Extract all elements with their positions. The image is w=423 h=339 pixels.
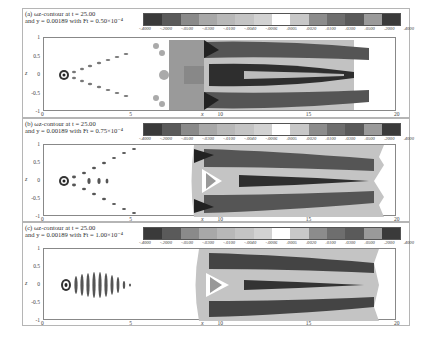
colorbar-swatch bbox=[345, 228, 363, 239]
colorbar-label: -.0040 bbox=[244, 240, 256, 245]
title-line1: (c) ωz-contour at t = 25.00 bbox=[25, 224, 123, 231]
colorbar-swatch bbox=[364, 124, 382, 135]
colorbar-swatch bbox=[327, 228, 345, 239]
panel-title: (b) ωz-contour at t = 25.00 and y = 0.00… bbox=[25, 120, 123, 135]
panel-title: (a) ωz-contour at t = 25.00 and y = 0.00… bbox=[25, 10, 123, 25]
colorbar-swatch bbox=[254, 228, 272, 239]
x-tick-label: 15 bbox=[306, 111, 312, 117]
x-tick-label: 5 bbox=[129, 111, 132, 117]
colorbar-swatch bbox=[235, 124, 253, 135]
colorbar-label: -.0040 bbox=[244, 136, 256, 141]
colorbar-swatch bbox=[290, 228, 308, 239]
colorbar-label: -.4000 bbox=[139, 240, 151, 245]
panel-c: (c) ωz-contour at t = 25.00 and y = 0.00… bbox=[22, 222, 410, 326]
colorbar-labels: -.4000-.2000-.0500-.0300-.0100-.0040-.00… bbox=[139, 240, 414, 245]
y-tick-label: 0.5 bbox=[26, 53, 40, 59]
colorbar-label: -.0500 bbox=[181, 26, 193, 31]
colorbar-label: -.2000 bbox=[160, 136, 172, 141]
colorbar-label: -.0300 bbox=[202, 26, 214, 31]
colorbar-swatch bbox=[382, 14, 400, 25]
colorbar-label: .0500 bbox=[365, 26, 375, 31]
y-tick-label: 1 bbox=[26, 34, 40, 40]
colorbar-swatch bbox=[144, 14, 162, 25]
colorbar-swatch bbox=[181, 14, 199, 25]
colorbar-swatch bbox=[309, 14, 327, 25]
colorbar-label: -.0100 bbox=[223, 240, 235, 245]
colorbar-swatch bbox=[162, 14, 180, 25]
x-tick-label: 20 bbox=[394, 320, 400, 326]
y-tick-label: -0.5 bbox=[26, 195, 40, 201]
colorbar-label: .0100 bbox=[326, 240, 336, 245]
colorbar-swatch bbox=[382, 228, 400, 239]
colorbar-swatch bbox=[309, 124, 327, 135]
colorbar-swatch bbox=[217, 124, 235, 135]
colorbar-label: .0300 bbox=[345, 26, 355, 31]
colorbar-label: -.0006 bbox=[265, 26, 277, 31]
colorbar-swatch bbox=[309, 228, 327, 239]
colorbar-swatch bbox=[272, 124, 290, 135]
x-tick-label: 15 bbox=[306, 320, 312, 326]
colorbar-label: -.4000 bbox=[139, 136, 151, 141]
colorbar-label: .0300 bbox=[345, 240, 355, 245]
x-tick-label: 0 bbox=[41, 320, 44, 326]
x-axis-label: x bbox=[201, 111, 204, 117]
y-axis-label: z bbox=[25, 70, 27, 76]
colorbar-swatch bbox=[272, 14, 290, 25]
colorbar-swatch bbox=[364, 228, 382, 239]
colorbar-label: .0300 bbox=[345, 136, 355, 141]
colorbar-swatch bbox=[235, 228, 253, 239]
y-tick-label: -1 bbox=[26, 317, 40, 323]
colorbar-swatch bbox=[345, 124, 363, 135]
panel-title: (c) ωz-contour at t = 25.00 and y = 0.00… bbox=[25, 224, 123, 239]
x-tick-label: 0 bbox=[41, 111, 44, 117]
title-line2: and y = 0.00189 with Ft = 0.75×10⁻⁴ bbox=[25, 127, 123, 134]
y-tick-label: -1 bbox=[26, 108, 40, 114]
colorbar-swatch bbox=[181, 228, 199, 239]
colorbar-label: .4000 bbox=[404, 240, 414, 245]
y-tick-label: 0 bbox=[26, 71, 40, 77]
colorbar bbox=[143, 227, 401, 240]
colorbar-swatch bbox=[199, 14, 217, 25]
colorbar-label: .0005 bbox=[286, 240, 296, 245]
y-tick-label: 0.5 bbox=[26, 159, 40, 165]
panel-b: (b) ωz-contour at t = 25.00 and y = 0.00… bbox=[22, 118, 410, 222]
colorbar-label: .4000 bbox=[404, 136, 414, 141]
colorbar-label: -.0006 bbox=[265, 240, 277, 245]
colorbar-label: .0005 bbox=[286, 26, 296, 31]
x-tick-label: 10 bbox=[218, 111, 224, 117]
x-axis-label: x bbox=[201, 320, 204, 326]
colorbar-swatch bbox=[327, 124, 345, 135]
colorbar bbox=[143, 13, 401, 26]
y-axis-label: z bbox=[25, 176, 27, 182]
colorbar-label: .0100 bbox=[326, 136, 336, 141]
colorbar-swatch bbox=[199, 124, 217, 135]
colorbar-label: .0020 bbox=[306, 136, 316, 141]
colorbar-swatch bbox=[181, 124, 199, 135]
colorbar-label: -.2000 bbox=[160, 26, 172, 31]
colorbar-labels: -.4000-.2000-.0500-.0300-.0100-.0040-.00… bbox=[139, 136, 414, 141]
colorbar-label: -.2000 bbox=[160, 240, 172, 245]
colorbar-swatch bbox=[345, 14, 363, 25]
contour-graphic bbox=[44, 38, 397, 112]
colorbar-swatch bbox=[199, 228, 217, 239]
colorbar-label: .0020 bbox=[306, 240, 316, 245]
contour-plot bbox=[43, 248, 396, 320]
panel-a: (a) ωz-contour at t = 25.00 and y = 0.00… bbox=[22, 8, 410, 118]
colorbar-swatch bbox=[144, 124, 162, 135]
colorbar-label: .0500 bbox=[365, 136, 375, 141]
colorbar-swatch bbox=[144, 228, 162, 239]
colorbar-label: .0020 bbox=[306, 26, 316, 31]
colorbar-swatch bbox=[290, 14, 308, 25]
colorbar-label: .2000 bbox=[384, 26, 394, 31]
colorbar-swatch bbox=[217, 228, 235, 239]
colorbar-swatch bbox=[254, 124, 272, 135]
x-tick-label: 20 bbox=[394, 111, 400, 117]
y-tick-label: 1 bbox=[26, 245, 40, 251]
y-tick-label: -0.5 bbox=[26, 299, 40, 305]
colorbar-swatch bbox=[272, 228, 290, 239]
y-tick-label: 0 bbox=[26, 281, 40, 287]
title-line1: (a) ωz-contour at t = 25.00 bbox=[25, 10, 123, 17]
colorbar-label: .0100 bbox=[326, 26, 336, 31]
contour-graphic bbox=[44, 249, 397, 321]
colorbar-label: -.0500 bbox=[181, 240, 193, 245]
